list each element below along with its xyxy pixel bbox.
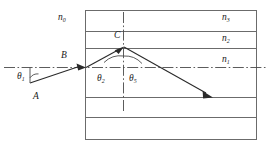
exit-ray-arrowhead — [203, 91, 213, 99]
ray-diagram-figure: n0 n3 n2 n1 C B A θ1 θ2 θ5 — [0, 0, 268, 150]
label-theta1: θ1 — [17, 72, 25, 82]
label-n0: n0 — [58, 13, 66, 23]
label-theta5: θ5 — [129, 74, 137, 84]
label-theta2: θ2 — [97, 74, 105, 84]
theta5-angle-arc — [124, 56, 143, 64]
theta1-angle-arc — [30, 74, 39, 78]
label-point-A: A — [33, 92, 39, 102]
label-point-C: C — [114, 31, 120, 41]
label-n2: n2 — [222, 34, 230, 44]
incident-ray-arrowhead — [77, 63, 87, 70]
ray-B-to-C — [86, 50, 119, 68]
medium-box-outline — [86, 11, 257, 140]
theta2-angle-arc — [104, 56, 124, 63]
incident-ray-A-to-B — [30, 67, 79, 84]
label-n3: n3 — [222, 13, 230, 23]
label-n1: n1 — [222, 55, 230, 65]
ray-BC-arrowhead — [115, 47, 124, 55]
exit-ray-C-to-exit — [124, 47, 206, 93]
label-point-B: B — [61, 51, 67, 61]
